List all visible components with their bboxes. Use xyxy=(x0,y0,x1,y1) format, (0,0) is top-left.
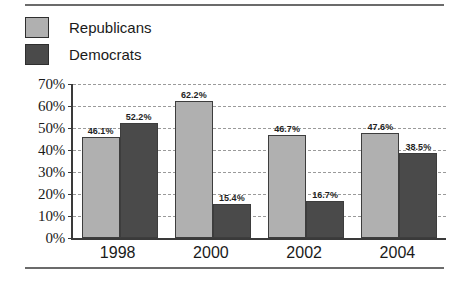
bar-chart: 70%60%50%40%30%20%10%0% 46.1%52.2%62.2%1… xyxy=(25,78,444,266)
y-tick-label: 50% xyxy=(38,120,65,137)
y-axis-tick-labels: 70%60%50%40%30%20%10%0% xyxy=(25,78,67,238)
y-axis-tick-mark xyxy=(68,238,73,239)
chart-legend: Republicans Democrats xyxy=(25,14,152,68)
x-tick-label-1998: 1998 xyxy=(71,244,164,262)
bottom-divider-rule xyxy=(25,267,444,269)
bar-democrats-2004[interactable]: 38.5% xyxy=(399,153,437,238)
bar-value-label: 46.7% xyxy=(274,124,300,134)
legend-item-democrats: Democrats xyxy=(25,41,152,68)
bar-republicans-2004[interactable]: 47.6% xyxy=(361,133,399,238)
y-tick-label: 10% xyxy=(38,208,65,225)
bar-democrats-2000[interactable]: 15.4% xyxy=(213,204,251,238)
y-tick-label: 20% xyxy=(38,186,65,203)
legend-swatch-democrats xyxy=(25,44,49,65)
bar-value-label: 15.4% xyxy=(219,193,245,203)
chart-page: Republicans Democrats 70%60%50%40%30%20%… xyxy=(0,0,461,282)
bar-group: 62.2%15.4% xyxy=(166,84,259,238)
plot-area: 46.1%52.2%62.2%15.4%46.7%16.7%47.6%38.5% xyxy=(71,84,446,240)
bar-republicans-2000[interactable]: 62.2% xyxy=(175,101,213,238)
y-tick-label: 70% xyxy=(38,76,65,93)
bar-value-label: 38.5% xyxy=(406,142,432,152)
legend-label-democrats: Democrats xyxy=(69,46,142,63)
x-tick-label-2004: 2004 xyxy=(351,244,444,262)
y-tick-label: 60% xyxy=(38,98,65,115)
bar-value-label: 62.2% xyxy=(181,90,207,100)
bar-group: 47.6%38.5% xyxy=(353,84,446,238)
bar-republicans-1998[interactable]: 46.1% xyxy=(82,137,120,238)
y-axis-tick-mark xyxy=(68,172,73,173)
y-tick-label: 0% xyxy=(45,230,65,247)
y-axis-tick-mark xyxy=(68,106,73,107)
x-tick-label-2002: 2002 xyxy=(258,244,351,262)
bar-value-label: 46.1% xyxy=(88,126,114,136)
top-divider-rule xyxy=(25,4,444,6)
y-axis-tick-mark xyxy=(68,84,73,85)
y-axis-tick-mark xyxy=(68,150,73,151)
bar-democrats-2002[interactable]: 16.7% xyxy=(306,201,344,238)
bar-value-label: 16.7% xyxy=(312,190,338,200)
bar-group: 46.1%52.2% xyxy=(73,84,166,238)
legend-swatch-republicans xyxy=(25,17,49,38)
bar-democrats-1998[interactable]: 52.2% xyxy=(120,123,158,238)
y-axis-tick-mark xyxy=(68,128,73,129)
bar-groups: 46.1%52.2%62.2%15.4%46.7%16.7%47.6%38.5% xyxy=(73,84,446,238)
legend-item-republicans: Republicans xyxy=(25,14,152,41)
bar-value-label: 47.6% xyxy=(368,122,394,132)
x-tick-label-2000: 2000 xyxy=(164,244,257,262)
y-tick-label: 30% xyxy=(38,164,65,181)
y-tick-label: 40% xyxy=(38,142,65,159)
bar-republicans-2002[interactable]: 46.7% xyxy=(268,135,306,238)
x-axis-tick-labels: 1998200020022004 xyxy=(71,244,444,262)
y-axis-tick-mark xyxy=(68,216,73,217)
y-axis-tick-mark xyxy=(68,194,73,195)
legend-label-republicans: Republicans xyxy=(69,19,152,36)
bar-value-label: 52.2% xyxy=(126,112,152,122)
bar-group: 46.7%16.7% xyxy=(260,84,353,238)
